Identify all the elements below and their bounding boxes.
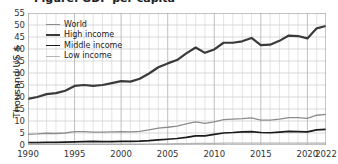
legend-swatch-line <box>46 24 60 25</box>
x-tick-label: 1990 <box>17 150 39 159</box>
legend-item: Middle income <box>46 41 122 51</box>
y-tick-label: 15 <box>5 105 25 114</box>
y-tick-label: 0 <box>5 141 25 150</box>
x-tick-label: 2010 <box>203 150 225 159</box>
y-axis-ticks: 0510152025303540455055 <box>3 0 25 164</box>
legend-label: World <box>64 21 87 29</box>
y-tick-label: 35 <box>5 57 25 66</box>
series-line-low-income <box>28 143 326 144</box>
y-tick-label: 20 <box>5 93 25 102</box>
legend-swatch-line <box>46 56 60 57</box>
y-tick-label: 10 <box>5 117 25 126</box>
y-tick-label: 5 <box>5 129 25 138</box>
x-tick-label: 2022 <box>315 150 337 159</box>
gdp-per-capita-line-chart: Figure: GDP per capita Thousand US $ 051… <box>0 0 338 164</box>
chart-title-clipped: Figure: GDP per capita <box>0 0 338 7</box>
legend-label: High income <box>64 31 114 39</box>
legend-swatch-line <box>46 34 60 36</box>
chart-legend: WorldHigh incomeMiddle incomeLow income <box>46 20 122 62</box>
y-tick-label: 25 <box>5 81 25 90</box>
legend-swatch-line <box>46 45 60 46</box>
legend-item: Low income <box>46 52 122 62</box>
y-tick-label: 55 <box>5 9 25 18</box>
y-tick-label: 40 <box>5 45 25 54</box>
x-tick-label: 2000 <box>110 150 132 159</box>
y-tick-label: 45 <box>5 33 25 42</box>
chart-title-text: Figure: GDP per capita <box>34 0 175 5</box>
legend-label: Middle income <box>64 42 122 50</box>
x-tick-label: 2005 <box>157 150 179 159</box>
x-tick-label: 2015 <box>250 150 272 159</box>
y-tick-label: 50 <box>5 21 25 30</box>
y-tick-label: 30 <box>5 69 25 78</box>
x-tick-label: 1995 <box>64 150 86 159</box>
legend-label: Low income <box>64 52 112 60</box>
legend-item: World <box>46 20 122 30</box>
legend-item: High income <box>46 31 122 41</box>
